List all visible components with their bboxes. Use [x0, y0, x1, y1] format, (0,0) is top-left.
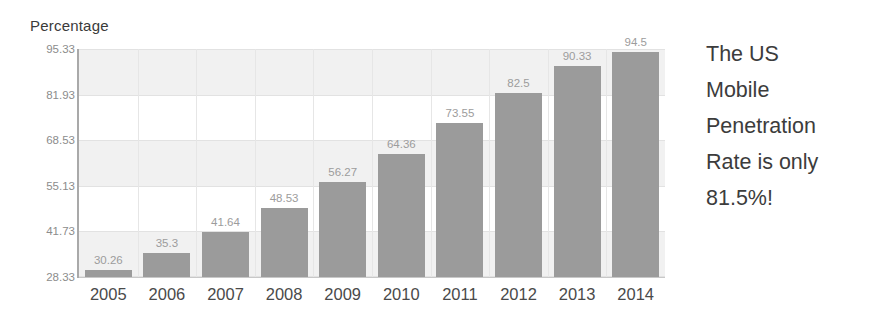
y-axis-title: Percentage — [30, 17, 109, 34]
slide-root: Percentage 95.3381.9368.5355.1341.7328.3… — [0, 0, 884, 330]
x-axis-tick-labels: 2005200620072008200920102011201220132014 — [79, 285, 665, 313]
bar[interactable] — [378, 154, 425, 277]
bar[interactable] — [202, 232, 249, 277]
bar[interactable] — [436, 123, 483, 277]
bar[interactable] — [612, 52, 659, 277]
y-axis-line — [77, 49, 79, 278]
bar[interactable] — [495, 93, 542, 277]
bar-value-label: 82.5 — [507, 77, 529, 89]
x-axis-tick-label: 2009 — [324, 285, 361, 304]
vertical-gridline — [548, 49, 549, 277]
x-axis-line — [79, 277, 665, 278]
y-axis-tick-label: 28.33 — [17, 271, 75, 283]
callout-line: Rate is only — [706, 144, 878, 180]
x-axis-tick-label: 2012 — [500, 285, 537, 304]
bar-chart: Percentage 95.3381.9368.5355.1341.7328.3… — [0, 0, 690, 330]
bar-value-label: 41.64 — [211, 216, 240, 228]
bar-value-label: 48.53 — [270, 192, 299, 204]
vertical-gridline — [196, 49, 197, 277]
y-axis-tick-label: 41.73 — [17, 225, 75, 237]
callout-line: Mobile — [706, 72, 878, 108]
callout-line: The US — [706, 36, 878, 72]
callout-text: The USMobilePenetrationRate is only81.5%… — [706, 36, 878, 216]
vertical-gridline — [489, 49, 490, 277]
y-axis-tick-label: 95.33 — [17, 43, 75, 55]
vertical-gridline — [313, 49, 314, 277]
vertical-gridline — [138, 49, 139, 277]
vertical-gridline — [606, 49, 607, 277]
vertical-gridline — [431, 49, 432, 277]
x-axis-tick-label: 2014 — [617, 285, 654, 304]
x-axis-tick-label: 2005 — [90, 285, 127, 304]
bar-value-label: 94.5 — [624, 36, 646, 48]
bar[interactable] — [554, 66, 601, 277]
bar[interactable] — [143, 253, 190, 277]
plot-area: 30.2635.341.6448.5356.2764.3673.5582.590… — [79, 49, 665, 277]
vertical-gridline — [255, 49, 256, 277]
x-axis-tick-label: 2013 — [559, 285, 596, 304]
x-axis-tick-label: 2010 — [383, 285, 420, 304]
callout-line: 81.5%! — [706, 180, 878, 216]
y-axis-tick-label: 68.53 — [17, 134, 75, 146]
bar[interactable] — [261, 208, 308, 277]
x-axis-tick-label: 2007 — [207, 285, 244, 304]
y-axis-tick-label: 55.13 — [17, 180, 75, 192]
vertical-gridline — [372, 49, 373, 277]
x-axis-tick-label: 2006 — [149, 285, 186, 304]
bar-value-label: 56.27 — [328, 166, 357, 178]
bar[interactable] — [319, 182, 366, 277]
bar-value-label: 73.55 — [446, 107, 475, 119]
bar-value-label: 35.3 — [156, 237, 178, 249]
y-axis-tick-labels: 95.3381.9368.5355.1341.7328.33 — [12, 49, 75, 277]
bar-value-label: 30.26 — [94, 254, 123, 266]
bar-value-label: 90.33 — [563, 50, 592, 62]
bar-value-label: 64.36 — [387, 138, 416, 150]
y-axis-tick-label: 81.93 — [17, 89, 75, 101]
x-axis-tick-label: 2008 — [266, 285, 303, 304]
callout-line: Penetration — [706, 108, 878, 144]
x-axis-tick-label: 2011 — [442, 285, 477, 304]
